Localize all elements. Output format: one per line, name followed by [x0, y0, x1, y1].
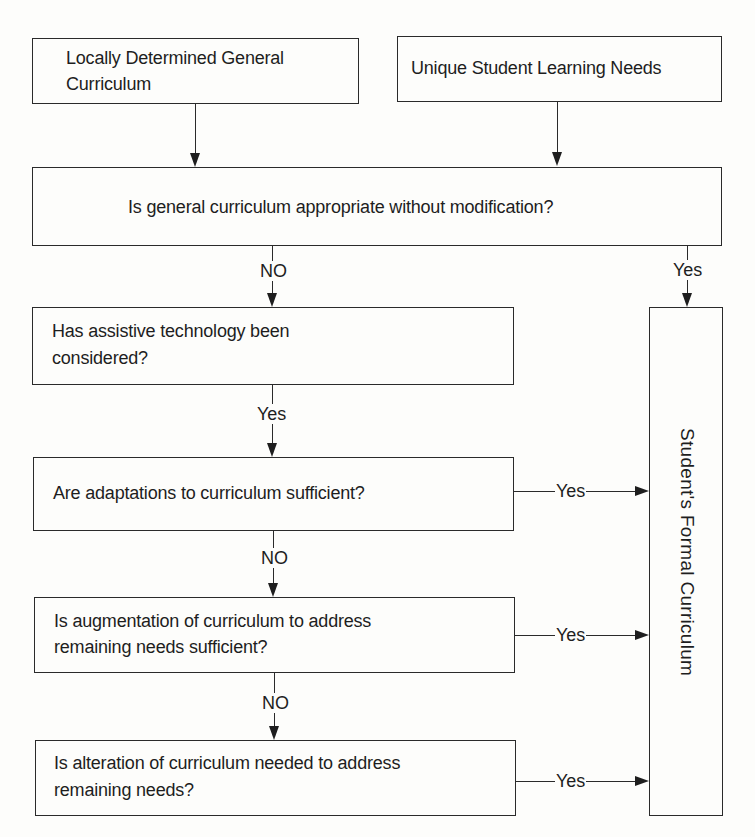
node-q-adaptations: Are adaptations to curriculum sufficient…: [33, 457, 514, 531]
node-label: Is general curriculum appropriate withou…: [128, 194, 553, 220]
node-label: Is augmentation of curriculum to address: [54, 608, 371, 634]
arrow-down-icon: [552, 152, 562, 166]
arrow-right-icon: [635, 486, 649, 496]
node-label: considered?: [52, 345, 148, 371]
node-label: Student's Formal Curriculum: [674, 428, 700, 676]
connector-line: [557, 102, 558, 153]
node-q-appropriate: Is general curriculum appropriate withou…: [32, 167, 722, 246]
node-label: Locally Determined General: [66, 45, 284, 71]
node-label: remaining needs?: [54, 777, 194, 803]
edge-label-yes: Yes: [256, 404, 287, 424]
arrow-down-icon: [269, 726, 279, 740]
arrow-down-icon: [267, 293, 277, 307]
edge-label-yes: Yes: [555, 625, 586, 645]
arrow-right-icon: [635, 776, 649, 786]
node-q-assistive: Has assistive technology been considered…: [32, 307, 514, 385]
node-label: Are adaptations to curriculum sufficient…: [53, 480, 365, 506]
connector-line: [195, 104, 196, 154]
node-q-augmentation: Is augmentation of curriculum to address…: [34, 597, 515, 673]
node-label: remaining needs sufficient?: [54, 634, 267, 660]
edge-label-no: NO: [261, 693, 290, 713]
node-label: Is alteration of curriculum needed to ad…: [54, 750, 400, 776]
edge-label-yes: Yes: [555, 771, 586, 791]
arrow-down-icon: [268, 583, 278, 597]
node-label: Curriculum: [66, 71, 151, 97]
edge-label-no: NO: [260, 548, 289, 568]
arrow-down-icon: [267, 443, 277, 457]
arrow-down-icon: [682, 293, 692, 307]
node-student-needs: Unique Student Learning Needs: [397, 36, 722, 102]
edge-label-yes: Yes: [672, 260, 703, 280]
node-general-curriculum: Locally Determined General Curriculum: [32, 38, 359, 104]
node-q-alteration: Is alteration of curriculum needed to ad…: [35, 740, 516, 816]
edge-label-no: NO: [259, 261, 288, 281]
node-label: Unique Student Learning Needs: [411, 55, 661, 81]
node-formal-curriculum: Student's Formal Curriculum: [649, 307, 723, 816]
node-label: Has assistive technology been: [52, 318, 289, 344]
arrow-down-icon: [190, 153, 200, 167]
arrow-right-icon: [635, 630, 649, 640]
edge-label-yes: Yes: [555, 481, 586, 501]
